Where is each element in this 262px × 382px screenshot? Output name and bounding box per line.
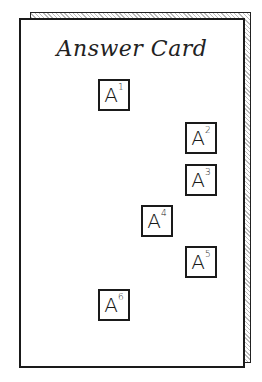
answer-box-2[interactable]: A2 [185, 122, 217, 154]
answer-label: A3 [191, 170, 210, 190]
answer-label: A2 [191, 128, 210, 148]
answer-label: A4 [147, 211, 166, 231]
answer-label: A1 [104, 85, 123, 105]
answer-label: A6 [104, 295, 123, 315]
answer-box-4[interactable]: A4 [141, 205, 173, 237]
card-title: Answer Card [21, 36, 243, 61]
answer-box-1[interactable]: A1 [98, 79, 130, 111]
answer-box-3[interactable]: A3 [185, 164, 217, 196]
answer-box-6[interactable]: A6 [98, 289, 130, 321]
answer-box-5[interactable]: A5 [185, 246, 217, 278]
answer-card: Answer Card A1 A2 A3 A4 A5 A6 [19, 18, 245, 368]
answer-label: A5 [191, 252, 210, 272]
